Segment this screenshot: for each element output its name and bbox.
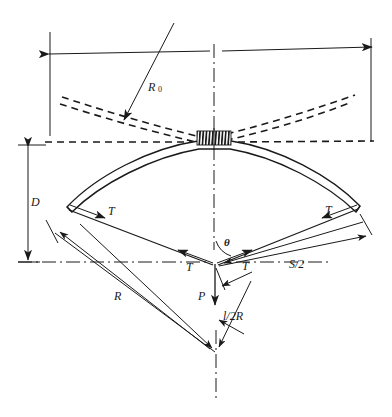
- label-depth: D: [30, 195, 40, 209]
- label-deflection-ratio: l/2R: [223, 309, 244, 323]
- figure-root: R 0 D T T: [0, 0, 392, 417]
- label-theta: θ: [224, 236, 230, 248]
- label-half-span: S/2: [289, 257, 304, 271]
- label-force-p: P: [197, 289, 206, 303]
- label-r0-subscript: 0: [158, 85, 162, 94]
- canvas-background: [0, 0, 392, 417]
- label-radius: R: [113, 289, 122, 303]
- label-r0: R: [147, 80, 156, 94]
- bow-force-diagram: R 0 D T T: [0, 0, 392, 417]
